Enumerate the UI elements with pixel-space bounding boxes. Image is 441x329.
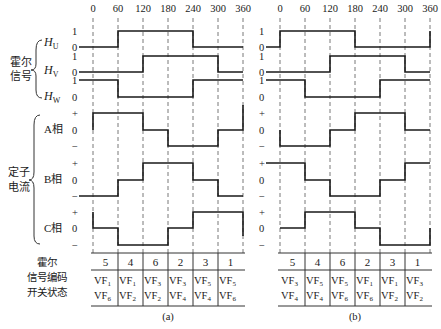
angle-tick-label: 60	[300, 3, 311, 14]
hall-v-label: HV	[43, 63, 59, 79]
panel-caption: (a)	[162, 311, 174, 323]
hall-group-line-1: 霍尔	[10, 56, 32, 68]
commutation-table: 546231VF3VF4VF5VF4VF5VF6VF1VF6VF1VF2VF3V…	[278, 253, 432, 306]
current-level-label: +	[72, 158, 78, 169]
current-group-line-2: 电流	[8, 180, 30, 193]
current-level-label: 0	[259, 125, 264, 136]
stator-current-group-label: 定子 电流	[8, 115, 40, 244]
angle-tick-label: 240	[185, 3, 201, 14]
hall-w-label: HW	[43, 89, 61, 105]
switch-state-upper: VF5	[331, 275, 348, 288]
switch-state-lower: VF4	[194, 290, 211, 303]
angle-tick-label: 0	[90, 3, 95, 14]
switch-state-lower: VF4	[281, 290, 298, 303]
angle-tick-label: 0	[277, 3, 282, 14]
table-label-line-3: 开关状态	[27, 286, 68, 298]
switch-state-lower: VF6	[94, 290, 111, 303]
current-level-label: −	[72, 191, 78, 202]
phase-b-label: B相	[44, 173, 62, 185]
angle-tick-label: 300	[210, 3, 226, 14]
switch-state-lower: VF2	[119, 290, 136, 303]
current-level-label: +	[259, 108, 265, 119]
current-level-label: 0	[72, 223, 77, 234]
hall-code-cell: 4	[315, 256, 321, 268]
current-wave-phase-b	[266, 163, 430, 196]
switch-state-upper: VF3	[281, 275, 298, 288]
angle-tick-label: 240	[372, 3, 388, 14]
logic-level-0: 0	[259, 92, 264, 103]
hall-code-cell: 2	[365, 256, 371, 268]
commutation-table: 546231VF1VF6VF1VF2VF3VF2VF3VF4VF5VF4VF5V…	[91, 253, 245, 306]
hall-code-cell: 6	[153, 256, 159, 268]
logic-level-1: 1	[72, 51, 77, 62]
switch-state-upper: VF5	[219, 275, 236, 288]
logic-level-1: 1	[72, 75, 77, 86]
hall-code-cell: 1	[415, 256, 421, 268]
hall-code-cell: 3	[390, 256, 396, 268]
current-wave-phase-c	[280, 212, 430, 245]
hall-u-label: HU	[43, 35, 59, 51]
current-level-label: +	[259, 158, 265, 169]
hall-wave-hv	[79, 56, 243, 72]
switch-state-upper: VF5	[194, 275, 211, 288]
switch-state-lower: VF4	[306, 290, 323, 303]
switch-state-lower: VF2	[406, 290, 423, 303]
panel-b: 060120180240300360101010+0−+0−+0−546231V…	[259, 3, 438, 323]
switch-state-lower: VF6	[219, 290, 236, 303]
hall-signal-group-label: 霍尔 信号	[10, 40, 42, 98]
current-level-label: −	[259, 240, 265, 251]
angle-tick-label: 120	[322, 3, 338, 14]
phase-a-label: A相	[44, 123, 63, 135]
hall-code-cell: 5	[290, 256, 296, 268]
hall-commutation-diagram: 霍尔 信号 HU HV HW 定子 电流 A相 B相 C相 霍尔 信号编码 开关…	[0, 0, 441, 329]
table-label-line-1: 霍尔	[37, 256, 57, 268]
switch-state-lower: VF6	[331, 290, 348, 303]
current-level-label: +	[259, 207, 265, 218]
current-level-label: −	[72, 141, 78, 152]
angle-tick-label: 120	[135, 3, 151, 14]
switch-state-upper: VF1	[356, 275, 373, 288]
logic-level-1: 1	[72, 26, 77, 37]
hall-group-brace	[31, 40, 42, 98]
current-level-label: 0	[72, 175, 77, 186]
current-level-label: −	[259, 141, 265, 152]
current-group-line-1: 定子	[8, 165, 30, 178]
hall-signal-names: HU HV HW	[43, 35, 61, 105]
current-wave-phase-a	[280, 113, 430, 146]
phase-c-label: C相	[44, 222, 62, 234]
logic-level-1: 1	[259, 75, 264, 86]
switch-state-upper: VF3	[144, 275, 161, 288]
current-level-label: −	[72, 240, 78, 251]
current-level-label: +	[72, 108, 78, 119]
current-level-label: 0	[72, 125, 77, 136]
angle-tick-label: 180	[347, 3, 363, 14]
current-group-brace	[29, 115, 40, 244]
current-level-label: 0	[259, 223, 264, 234]
hall-code-cell: 5	[103, 256, 109, 268]
table-row-label: 霍尔 信号编码 开关状态	[27, 256, 68, 298]
table-label-line-2: 信号编码	[27, 271, 67, 283]
switch-state-lower: VF6	[356, 290, 373, 303]
phase-names: A相 B相 C相	[44, 123, 63, 234]
panel-a: 060120180240300360101010+0−+0−+0−546231V…	[72, 3, 251, 323]
switch-state-upper: VF5	[306, 275, 323, 288]
hall-code-cell: 4	[128, 256, 134, 268]
angle-tick-label: 60	[113, 3, 124, 14]
switch-state-upper: VF1	[94, 275, 111, 288]
angle-tick-label: 300	[397, 3, 413, 14]
hall-code-cell: 6	[340, 256, 346, 268]
hall-code-cell: 1	[228, 256, 234, 268]
hall-group-line-2: 信号	[10, 70, 32, 82]
switch-state-lower: VF2	[144, 290, 161, 303]
hall-code-cell: 2	[178, 256, 184, 268]
logic-level-1: 1	[259, 51, 264, 62]
angle-tick-label: 360	[235, 3, 251, 14]
switch-state-upper: VF1	[119, 275, 136, 288]
current-level-label: −	[259, 191, 265, 202]
current-level-label: 0	[259, 175, 264, 186]
logic-level-0: 0	[72, 92, 77, 103]
switch-state-lower: VF4	[169, 290, 186, 303]
switch-state-upper: VF3	[406, 275, 423, 288]
logic-level-1: 1	[259, 26, 264, 37]
panel-caption: (b)	[349, 311, 362, 323]
